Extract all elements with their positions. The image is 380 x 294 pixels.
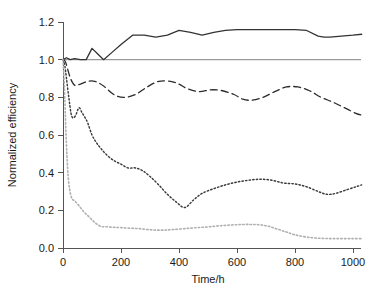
y-tick-label: 1.2	[39, 16, 54, 28]
x-tick-label: 600	[228, 256, 246, 268]
x-tick-label: 800	[286, 256, 304, 268]
y-tick-label: 0.2	[39, 204, 54, 216]
x-tick-label: 0	[60, 256, 66, 268]
y-axis-title: Normalized efficiency	[6, 82, 18, 187]
y-tick-label: 1.0	[39, 54, 54, 66]
y-tick-label: 0.4	[39, 167, 54, 179]
series-dotted-series	[63, 60, 362, 208]
series-gray-dotted-series	[63, 60, 362, 239]
y-tick-label: 0.6	[39, 129, 54, 141]
y-tick-label: 0.0	[39, 242, 54, 254]
y-tick-label: 0.8	[39, 91, 54, 103]
line-chart: 0.00.20.40.60.81.01.2Normalized efficien…	[0, 0, 380, 294]
x-tick-label: 1000	[341, 256, 365, 268]
x-tick-label: 200	[112, 256, 130, 268]
x-tick-label: 400	[170, 256, 188, 268]
chart-figure: 0.00.20.40.60.81.01.2Normalized efficien…	[0, 0, 380, 294]
series-solid-series	[63, 30, 362, 60]
x-axis-title: Time/h	[191, 273, 224, 285]
series-dashed-series	[63, 60, 362, 116]
